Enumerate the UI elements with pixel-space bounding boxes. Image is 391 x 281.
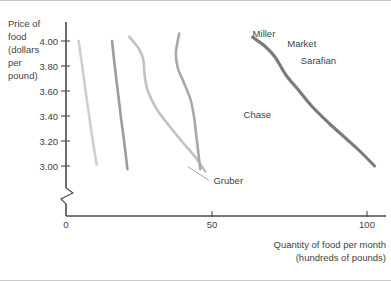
y-axis-title-line-0: Price of (8, 18, 41, 29)
y-tick-label-0: 4.00 (40, 36, 59, 47)
y-tick-label-4: 3.20 (40, 136, 59, 147)
y-axis-title-line-2: (dollars (8, 44, 39, 55)
axis-break-icon (61, 188, 73, 204)
x-tick-label-0: 0 (63, 219, 68, 230)
y-tick-label-2: 3.60 (40, 86, 59, 97)
x-axis-title-line-0: Quantity of food per month (274, 239, 386, 250)
demand-curves-figure: 4.00 3.80 3.60 3.40 3.20 3.00 0 50 100 P… (0, 0, 391, 281)
curve-label-gruber: Gruber (213, 175, 243, 186)
y-tick-label-5: 3.00 (40, 161, 59, 172)
curve-miller[interactable] (129, 37, 205, 172)
curve-chase[interactable] (112, 41, 127, 169)
curve-label-chase: Chase (244, 109, 271, 120)
x-axis-title-line-1: (hundreds of pounds) (296, 252, 386, 263)
x-tick-label-2: 100 (359, 219, 375, 230)
y-axis-title-line-3: per (8, 57, 22, 68)
y-axis-title-line-1: food (8, 31, 27, 42)
curve-gruber[interactable] (79, 41, 97, 165)
curve-label-miller: Miller (253, 28, 276, 39)
x-tick-label-1: 50 (207, 219, 218, 230)
y-axis-title-line-4: pound) (8, 70, 38, 81)
curve-labels-layer: GruberChaseMillerSarafianMarket (213, 28, 336, 187)
curve-label-sarafian: Sarafian (301, 55, 336, 66)
y-tick-label-3: 3.40 (40, 111, 59, 122)
leader-line-gruber (188, 167, 209, 181)
y-tick-label-1: 3.80 (40, 61, 59, 72)
chart-canvas: 4.00 3.80 3.60 3.40 3.20 3.00 0 50 100 P… (0, 0, 391, 281)
curve-label-market: Market (287, 38, 316, 49)
